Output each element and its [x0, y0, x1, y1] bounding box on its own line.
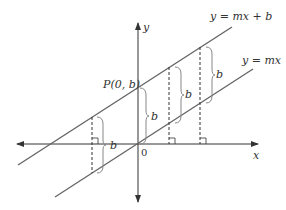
point-p-label: P(0, b) — [102, 78, 140, 91]
line-y-mx — [55, 69, 253, 197]
brace-right-label: b — [216, 68, 223, 81]
brace-left-label: b — [110, 139, 117, 152]
brace-middle-label: b — [185, 88, 192, 101]
origin-label: 0 — [141, 147, 147, 158]
brace-center-label: b — [151, 110, 158, 123]
right-angle-right — [200, 138, 206, 144]
line-y-mx-label: y = mx — [241, 54, 282, 67]
x-axis-label: x — [253, 149, 260, 162]
brace-center — [140, 88, 149, 144]
y-axis-label: y — [142, 21, 150, 34]
line-y-mx-plus-b-label: y = mx + b — [209, 10, 272, 23]
right-angle-middle — [169, 138, 175, 144]
right-angle-left — [92, 138, 98, 144]
diagram: y x 0 y = mx + b y = mx P(0, b) b b b b — [0, 0, 286, 210]
